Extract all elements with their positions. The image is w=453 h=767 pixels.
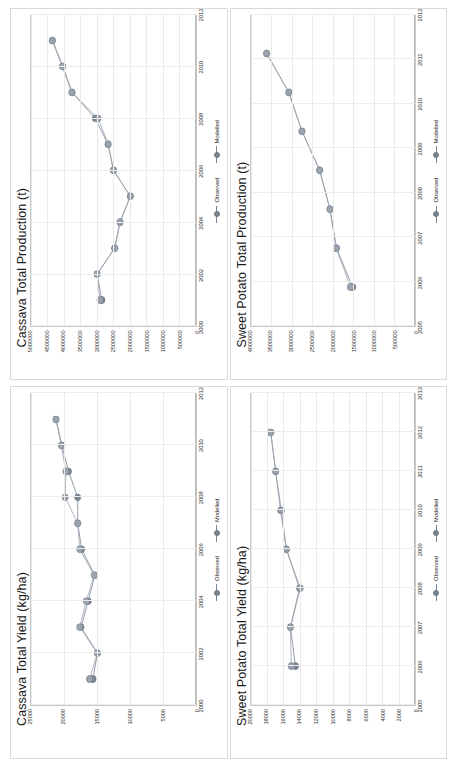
x-axis-labels: 2000200220042006200820102012 — [197, 394, 210, 707]
gridline-vertical — [251, 326, 416, 327]
gridline-horizontal — [300, 394, 301, 706]
legend-label-modelled: Modelled — [214, 498, 220, 522]
x-tick-label: 2011 — [417, 53, 423, 65]
gridline-vertical — [251, 431, 416, 432]
gridline-horizontal — [113, 15, 114, 327]
y-tick-label: 1000000 — [160, 331, 166, 353]
y-tick-label: 18000 — [263, 709, 269, 725]
gridline-horizontal — [97, 394, 98, 706]
y-tick-label: 4500000 — [44, 331, 50, 353]
gridline-vertical — [31, 118, 196, 119]
gridline-vertical — [31, 14, 196, 15]
legend-marker-modelled-icon — [436, 525, 437, 542]
panel-cassava-yield: Cassava Total Yield (kg/ha) 050001000015… — [10, 387, 228, 760]
y-tick-label: 2000000 — [330, 331, 336, 353]
gridline-vertical — [251, 14, 416, 15]
gridline-vertical — [251, 281, 416, 282]
x-tick-label: 2009 — [417, 142, 423, 155]
gridline-horizontal — [163, 15, 164, 327]
gridline-vertical — [31, 444, 196, 445]
figure-grid: Cassava Total Yield (kg/ha) 050001000015… — [0, 0, 453, 767]
gridline-vertical — [251, 59, 416, 60]
gridline-horizontal — [251, 15, 252, 327]
y-tick-label: 1500000 — [351, 331, 357, 353]
series-svg — [31, 394, 196, 706]
x-axis-labels: 20052006200720082009201020112012 — [416, 15, 429, 328]
data-point — [298, 128, 304, 135]
legend-item-modelled[interactable]: Modelled — [433, 498, 439, 542]
gridline-horizontal — [374, 15, 375, 327]
gridline-vertical — [251, 148, 416, 149]
gridline-horizontal — [130, 15, 131, 327]
legend-item-observed[interactable]: Observed — [214, 177, 220, 222]
x-tick-label: 2010 — [198, 61, 204, 74]
y-tick-label: 2500000 — [309, 331, 315, 353]
legend-item-modelled[interactable]: Modelled — [433, 120, 439, 164]
chart-title: Sweet Potato Total Yield (kg/ha) — [235, 394, 249, 753]
x-tick-label: 2006 — [198, 543, 204, 556]
gridline-vertical — [31, 704, 196, 705]
gridline-horizontal — [251, 394, 252, 706]
y-tick-label: 5000 — [160, 709, 166, 721]
gridline-vertical — [31, 274, 196, 275]
x-tick-label: 2012 — [417, 9, 423, 22]
legend-label-observed: Observed — [433, 177, 439, 202]
gridline-horizontal — [146, 15, 147, 327]
x-tick-label: 2009 — [417, 543, 423, 556]
y-tick-label: 3000000 — [288, 331, 294, 353]
legend-item-observed[interactable]: Observed — [433, 177, 439, 222]
y-tick-label: 15000 — [94, 709, 100, 725]
gridline-horizontal — [31, 15, 32, 327]
legend-item-observed[interactable]: Observed — [433, 556, 439, 601]
gridline-vertical — [31, 652, 196, 653]
gridline-vertical — [251, 704, 416, 705]
y-tick-label: 500000 — [177, 331, 183, 350]
gridline-horizontal — [267, 394, 268, 706]
y-tick-label: 20000 — [247, 709, 253, 725]
plot-area — [250, 394, 417, 707]
data-point — [272, 468, 278, 475]
gridline-horizontal — [349, 394, 350, 706]
legend-marker-modelled-icon — [436, 146, 437, 163]
gridline-vertical — [31, 326, 196, 327]
x-tick-label: 2006 — [417, 660, 423, 673]
chart-title: Cassava Total Yield (kg/ha) — [15, 394, 29, 753]
gridline-vertical — [251, 548, 416, 549]
data-point — [77, 546, 83, 553]
x-tick-label: 2000 — [198, 321, 204, 334]
y-tick-label: 4000 — [380, 709, 386, 721]
y-tick-label: 500000 — [392, 331, 398, 350]
legend-item-modelled[interactable]: Modelled — [214, 498, 220, 542]
legend-item-modelled[interactable]: Modelled — [214, 120, 220, 164]
y-tick-label: 3000000 — [94, 331, 100, 353]
legend: Observed Modelled — [211, 394, 223, 707]
chart-title: Cassava Total Production (t) — [15, 15, 29, 374]
y-tick-label: 4000000 — [247, 331, 253, 353]
legend: Observed Modelled — [430, 394, 442, 707]
x-tick-label: 2012 — [198, 387, 204, 400]
legend-label-observed: Observed — [214, 177, 220, 202]
gridline-vertical — [31, 393, 196, 394]
gridline-horizontal — [283, 394, 284, 706]
plot-area — [30, 394, 197, 707]
x-tick-label: 2002 — [198, 647, 204, 660]
legend: Observed Modelled — [211, 15, 223, 328]
y-tick-label: 2500000 — [110, 331, 116, 353]
y-tick-label: 10000 — [127, 709, 133, 725]
x-tick-label: 2004 — [198, 217, 204, 230]
gridline-horizontal — [179, 15, 180, 327]
data-point — [77, 624, 83, 631]
y-axis-labels: 0200040006000800010000120001400016000180… — [250, 706, 417, 752]
y-tick-label: 4000000 — [60, 331, 66, 353]
gridline-vertical — [251, 509, 416, 510]
data-point — [105, 141, 111, 148]
legend-item-observed[interactable]: Observed — [214, 556, 220, 601]
y-tick-label: 16000 — [280, 709, 286, 725]
x-tick-label: 2004 — [198, 595, 204, 608]
gridline-vertical — [251, 103, 416, 104]
data-point — [288, 663, 294, 670]
x-tick-label: 2002 — [198, 269, 204, 282]
gridline-horizontal — [399, 394, 400, 706]
x-tick-label: 2007 — [417, 232, 423, 245]
gridline-vertical — [251, 470, 416, 471]
